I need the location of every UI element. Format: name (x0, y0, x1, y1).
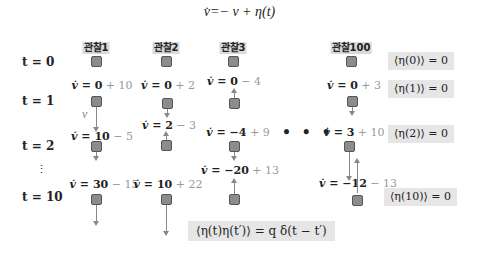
particle-1-t1 (91, 96, 102, 107)
particle-3-t2 (229, 141, 240, 152)
observation-2-header: 관찰2 (153, 42, 180, 54)
noise-mean-t0: ⟨η(0)⟩ = 0 (388, 52, 454, 70)
particle-2-t2 (161, 140, 172, 151)
obs1-t1-equation: v̇ = 0 + 10 (71, 79, 132, 92)
particle-2-t1 (162, 98, 173, 109)
velocity-arrow-100-t2 (349, 152, 350, 178)
equation-title: v̇=− v + η(t) (0, 4, 479, 20)
particle-2-t10 (161, 194, 172, 205)
obs1-t10-equation: v̇ = 30 − 15 (70, 178, 139, 191)
obs100-t1-equation: v̇ = 0 + 3 (327, 79, 381, 92)
particle-2-t0 (161, 56, 172, 67)
velocity-arrow-1-t1 (96, 107, 97, 129)
arrowhead-down-icon (231, 156, 237, 161)
noise-mean-t10: ⟨η(10)⟩ = 0 (384, 188, 457, 206)
particle-3-t1 (229, 98, 240, 109)
obs2-t2-equation: v̇ = 2 − 3 (142, 119, 196, 132)
ellipsis-more-observations: • • • (282, 124, 334, 140)
obs3-t2-equation: v̇ = −4 + 9 (206, 126, 269, 139)
velocity-label: v (82, 107, 87, 122)
velocity-arrow-3-t10 (234, 182, 235, 194)
arrowhead-down-icon (349, 111, 355, 116)
particle-1-t2 (91, 141, 102, 152)
arrowhead-down-icon (93, 156, 99, 161)
arrowhead-up-icon (163, 131, 169, 136)
velocity-arrow-100-t10 (357, 162, 358, 193)
particle-1-t0 (91, 56, 102, 67)
arrowhead-down-icon (93, 221, 99, 226)
observation-1-header: 관찰1 (83, 42, 110, 54)
observation-3-header: 관찰3 (220, 42, 247, 54)
obs3-t1-equation: v̇ = 0 − 4 (207, 75, 261, 88)
obs1-t2-equation: v̇ = 10 − 5 (71, 130, 133, 143)
arrowhead-down-icon (163, 231, 169, 236)
row-label-t2: t = 2 (22, 139, 54, 153)
velocity-arrow-2-t10 (166, 205, 167, 233)
observation-100-header: 관찰100 (331, 42, 372, 54)
obs2-t1-equation: v̇ = 0 + 2 (141, 79, 195, 92)
particle-100-t1 (347, 96, 358, 107)
arrowhead-down-icon (164, 113, 170, 118)
noise-mean-t2: ⟨η(2)⟩ = 0 (388, 125, 454, 143)
noise-correlation: ⟨η(t)η(t′)⟩ = q δ(t − t′) (188, 221, 335, 241)
particle-3-t0 (228, 56, 239, 67)
particle-1-t10 (91, 194, 102, 205)
particle-100-t2 (344, 141, 355, 152)
row-label-t10: t = 10 (22, 190, 63, 204)
particle-100-t10 (352, 195, 363, 206)
row-label-t0: t = 0 (22, 55, 54, 69)
arrowhead-up-icon (231, 88, 237, 93)
row-label-vdots: ⋮ (36, 163, 47, 176)
row-label-t1: t = 1 (22, 94, 54, 108)
particle-100-t0 (346, 56, 357, 67)
particle-3-t10 (229, 194, 240, 205)
arrowhead-up-icon (231, 178, 237, 183)
arrowhead-up-icon (354, 158, 360, 163)
noise-mean-t1: ⟨η(1)⟩ = 0 (388, 80, 454, 98)
obs2-t10-equation: v̇ = 10 + 22 (134, 178, 203, 191)
obs3-t10-equation: v̇ = −20 + 13 (201, 164, 279, 177)
